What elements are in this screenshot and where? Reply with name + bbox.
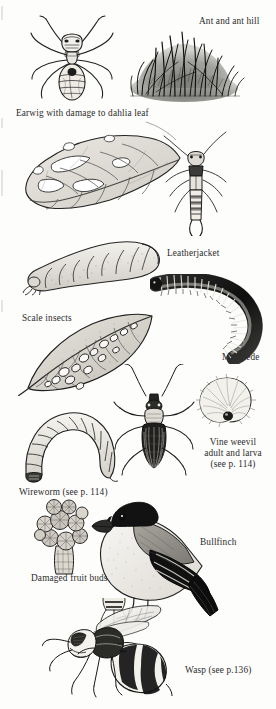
caption-wireworm: Wireworm (see p. 114)	[19, 487, 108, 498]
caption-damaged-fruit-buds: Damaged fruit buds	[31, 573, 108, 584]
earwig-and-dahlia-leaf-illustration	[18, 120, 258, 236]
caption-ant-and-ant-hill: Ant and ant hill	[199, 16, 260, 27]
ant-hill-illustration	[122, 18, 248, 102]
caption-vine-weevil: Vine weevil adult and larva (see p. 114)	[192, 437, 274, 470]
scan-edge-mark	[1, 170, 3, 196]
illustration-plate: Ant and ant hill Earwig with damage to d…	[0, 0, 276, 709]
caption-leatherjacket: Leatherjacket	[167, 248, 220, 259]
wireworm-illustration	[16, 398, 128, 484]
caption-bullfinch: Bullfinch	[200, 537, 236, 548]
scan-edge-mark	[1, 6, 3, 20]
caption-millipede: Millipede	[222, 352, 260, 363]
caption-earwig-dahlia-leaf: Earwig with damage to dahlia leaf	[16, 108, 149, 119]
caption-scale-insects: Scale insects	[22, 313, 72, 324]
scan-edge-mark	[1, 118, 3, 128]
wasp-illustration	[42, 598, 188, 702]
leatherjacket-illustration	[22, 232, 170, 296]
vine-weevil-larva-illustration	[194, 370, 260, 430]
scan-edge-mark	[1, 300, 3, 312]
ant-illustration	[22, 14, 122, 110]
caption-wasp: Wasp (see p.136)	[185, 665, 251, 676]
